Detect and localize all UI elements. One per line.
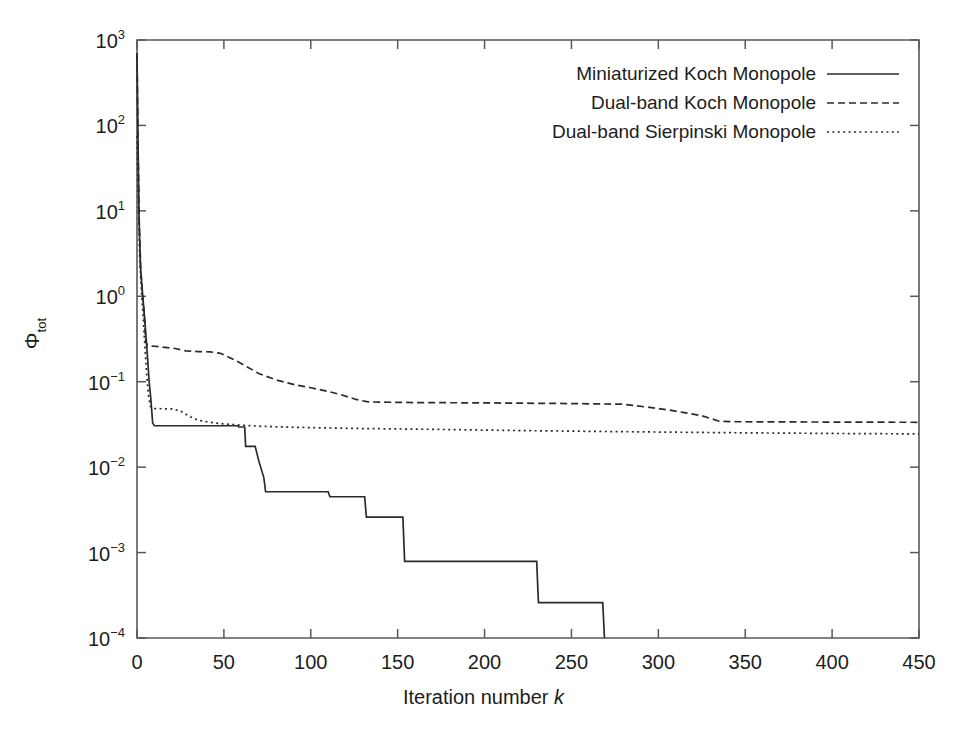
y-axis-title-base: Φ bbox=[20, 332, 43, 349]
x-tick-label-7: 350 bbox=[705, 652, 785, 672]
x-tick-label-0: 0 bbox=[97, 652, 177, 672]
y-axis-title-subscript: tot bbox=[35, 318, 50, 332]
y-tick-label-3: 10−1 bbox=[35, 371, 125, 393]
y-tick-label-0: 10−4 bbox=[35, 627, 125, 649]
y-axis-title: Φtot bbox=[20, 274, 47, 394]
y-tick-label-4: 100 bbox=[35, 285, 125, 307]
y-tick-label-6: 102 bbox=[35, 114, 125, 136]
legend-line-sample-dotted bbox=[826, 126, 900, 138]
legend-label-2: Dual-band Sierpinski Monopole bbox=[552, 121, 826, 143]
x-axis-title-variable: k bbox=[554, 686, 564, 708]
legend-entry-2: Dual-band Sierpinski Monopole bbox=[430, 117, 900, 146]
series-line-2 bbox=[137, 136, 919, 434]
figure-chart-convergence: 10−410−310−210−1100101102103 05010015020… bbox=[0, 0, 967, 737]
legend-line-sample-dashed bbox=[826, 97, 900, 109]
legend-line-sample-solid bbox=[826, 68, 900, 80]
x-axis-title: Iteration number k bbox=[0, 686, 967, 709]
x-tick-label-3: 150 bbox=[358, 652, 438, 672]
x-tick-label-2: 100 bbox=[271, 652, 351, 672]
x-tick-label-5: 250 bbox=[531, 652, 611, 672]
x-tick-label-8: 400 bbox=[792, 652, 872, 672]
chart-legend: Miniaturized Koch MonopoleDual-band Koch… bbox=[430, 59, 900, 146]
x-tick-label-4: 200 bbox=[445, 652, 525, 672]
legend-label-1: Dual-band Koch Monopole bbox=[591, 92, 826, 114]
y-tick-label-1: 10−3 bbox=[35, 542, 125, 564]
legend-entry-0: Miniaturized Koch Monopole bbox=[430, 59, 900, 88]
legend-label-0: Miniaturized Koch Monopole bbox=[576, 63, 826, 85]
x-tick-label-9: 450 bbox=[879, 652, 959, 672]
y-tick-label-2: 10−2 bbox=[35, 456, 125, 478]
x-tick-label-1: 50 bbox=[184, 652, 264, 672]
x-tick-label-6: 300 bbox=[618, 652, 698, 672]
y-tick-label-7: 103 bbox=[35, 29, 125, 51]
y-tick-label-5: 101 bbox=[35, 200, 125, 222]
legend-entry-1: Dual-band Koch Monopole bbox=[430, 88, 900, 117]
x-axis-title-prefix: Iteration number bbox=[403, 686, 554, 708]
